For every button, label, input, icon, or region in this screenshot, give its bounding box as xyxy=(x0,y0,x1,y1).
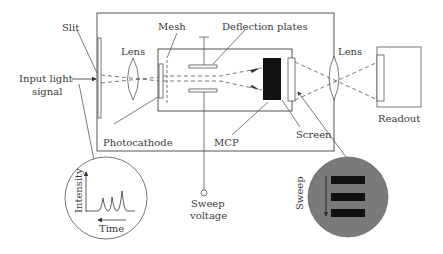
label-slit: Slit xyxy=(62,22,79,33)
label-screen: Screen xyxy=(296,129,332,140)
label-photocathode: Photocathode xyxy=(103,137,173,148)
label-intensity: Intensity xyxy=(73,168,84,213)
readout-sensor xyxy=(377,55,384,101)
label-readout: Readout xyxy=(378,113,420,124)
label-input-line2: signal xyxy=(32,86,62,97)
electron-path xyxy=(163,68,262,90)
deflection-plate-top xyxy=(189,65,217,68)
sweep-voltage-terminal xyxy=(201,190,207,196)
label-lens-right: Lens xyxy=(338,46,362,57)
mcp xyxy=(263,58,281,100)
label-lens-left: Lens xyxy=(121,46,145,57)
phosphor-screen xyxy=(288,58,295,101)
label-mcp: MCP xyxy=(214,137,239,148)
label-sweep-voltage-line1: Sweep xyxy=(191,198,225,209)
label-sweep: Sweep xyxy=(294,176,305,210)
deflection-plate-bottom xyxy=(189,89,217,92)
streak-image-inset xyxy=(308,157,388,237)
photocathode xyxy=(159,64,163,98)
label-mesh: Mesh xyxy=(158,21,186,32)
label-deflection-plates: Deflection plates xyxy=(222,21,308,32)
label-sweep-voltage-line2: voltage xyxy=(189,210,227,221)
label-input-line1: Input light xyxy=(19,73,73,84)
slit-plate xyxy=(98,38,101,118)
label-time: Time xyxy=(99,223,124,234)
streak-camera-diagram: Slit Input light signal Lens Mesh Deflec… xyxy=(0,0,443,254)
